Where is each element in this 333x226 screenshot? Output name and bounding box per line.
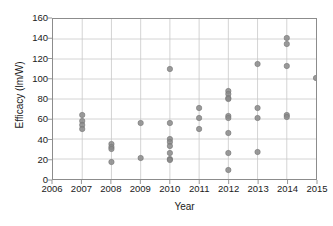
x-tick-label: 2015 (300, 183, 333, 195)
data-point (138, 155, 143, 160)
data-point (167, 150, 172, 155)
data-point (226, 115, 231, 120)
y-tick-label: 40 (22, 135, 48, 145)
data-point (313, 75, 316, 80)
data-point (226, 167, 231, 172)
data-point (284, 63, 289, 68)
data-point (196, 126, 201, 131)
data-point (284, 41, 289, 46)
y-tick-label: 100 (22, 74, 48, 84)
plot-area (52, 18, 317, 180)
y-axis-tick-labels: 020406080100120140160 (22, 14, 48, 180)
data-point (167, 157, 172, 162)
data-point (284, 35, 289, 40)
data-point (196, 115, 201, 120)
y-tick-label: 20 (22, 155, 48, 165)
y-tick-label: 60 (22, 114, 48, 124)
y-tick-label: 80 (22, 94, 48, 104)
data-point (167, 120, 172, 125)
data-point (226, 150, 231, 155)
data-point (80, 126, 85, 131)
y-tick-label: 160 (22, 13, 48, 23)
data-point (284, 114, 289, 119)
data-point (255, 105, 260, 110)
data-points-layer (53, 19, 316, 179)
y-tick-label: 120 (22, 54, 48, 64)
x-axis-tick-labels: 2006200720082009201020112012201320142015 (52, 183, 317, 197)
data-point (196, 105, 201, 110)
data-point (167, 143, 172, 148)
data-point (255, 149, 260, 154)
data-point (109, 146, 114, 151)
data-point (255, 115, 260, 120)
scatter-chart: Efficacy (lm/W) 020406080100120140160 20… (0, 0, 333, 226)
x-axis-title: Year (52, 200, 317, 213)
data-point (109, 159, 114, 164)
data-point (255, 61, 260, 66)
data-point (80, 112, 85, 117)
data-point (226, 96, 231, 101)
y-tick-label: 140 (22, 33, 48, 43)
data-point (138, 120, 143, 125)
data-point (226, 130, 231, 135)
data-point (167, 66, 172, 71)
